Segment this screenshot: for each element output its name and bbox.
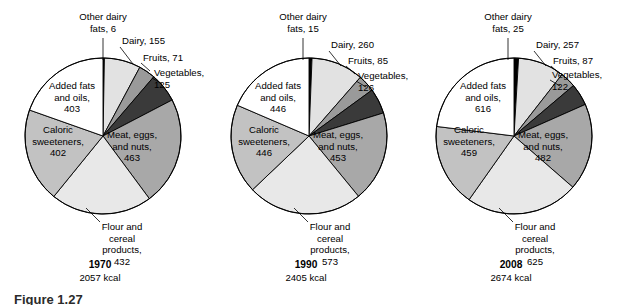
- pie-label-line: sweeteners,: [32, 136, 84, 147]
- pie-label-fruits: Fruits, 85: [348, 55, 388, 66]
- pie-label-line: products,: [310, 244, 349, 255]
- pie-label-line: Vegetables,: [358, 70, 408, 81]
- pie-label-line: Fruits, 87: [553, 55, 593, 66]
- pie-label-line: cereal: [522, 233, 548, 244]
- pie-label-line: 402: [50, 147, 66, 158]
- pie-label-line: Other dairy: [484, 11, 532, 22]
- pie-label-line: Vegetables,: [154, 67, 204, 78]
- pie-label-line: Meat, eggs,: [313, 129, 363, 140]
- pie-label-line: Flour and: [515, 221, 556, 232]
- pie-label-line: and oils,: [260, 92, 296, 103]
- pie-label-line: 625: [527, 256, 543, 267]
- pie-label-line: Other dairy: [79, 11, 127, 22]
- pie-label-other_dairy_fats: Other dairyfats, 6: [79, 11, 127, 34]
- pie-label-line: 122: [552, 81, 568, 92]
- pie-label-line: Other dairy: [279, 11, 327, 22]
- pie-label-line: Meat, eggs,: [107, 129, 157, 140]
- pie-label-dairy: Dairy, 155: [122, 35, 165, 46]
- pie-label-line: cereal: [109, 233, 135, 244]
- pie-label-line: sweeteners,: [443, 136, 495, 147]
- pie-label-line: products,: [515, 244, 554, 255]
- pie-label-line: Dairy, 260: [331, 39, 374, 50]
- pie-label-line: Added fats: [460, 80, 506, 91]
- pie-label-dairy: Dairy, 257: [536, 39, 579, 50]
- pie-label-line: and nuts,: [318, 141, 357, 152]
- pie-label-vegetables: Vegetables,126: [358, 70, 408, 93]
- pie-label-other_dairy_fats: Other dairyfats, 15: [279, 11, 327, 34]
- pie-label-line: Meat, eggs,: [518, 129, 568, 140]
- pie-label-vegetables: Vegetables,125: [154, 67, 204, 90]
- pie-label-other_dairy_fats: Other dairyfats, 25: [484, 11, 532, 34]
- pie-label-line: 482: [535, 152, 551, 163]
- pie-label-line: 446: [270, 103, 286, 114]
- pie-chart-2008: Other dairyfats, 25Dairy, 257Fruits, 87V…: [436, 11, 602, 283]
- pie-label-line: and nuts,: [523, 141, 562, 152]
- pie-label-line: 453: [330, 152, 346, 163]
- pie-label-fruits: Fruits, 87: [553, 55, 593, 66]
- pie-label-vegetables: Vegetables,122: [552, 69, 602, 92]
- pie-label-line: 403: [64, 103, 80, 114]
- pie-label-line: and oils,: [54, 92, 90, 103]
- pie-chart-1990: Other dairyfats, 15Dairy, 260Fruits, 85V…: [231, 11, 408, 283]
- pie-label-line: Flour and: [310, 221, 351, 232]
- pie-label-line: Fruits, 71: [143, 52, 183, 63]
- pie-label-line: Caloric: [43, 124, 73, 135]
- chart-year-1990: 1990: [295, 259, 318, 270]
- pie-label-line: sweeteners,: [238, 136, 290, 147]
- pie-label-line: 125: [154, 79, 170, 90]
- pie-label-line: Flour and: [102, 221, 143, 232]
- pie-label-line: fats, 6: [90, 23, 116, 34]
- chart-total-kcal-1990: 2405 kcal: [285, 272, 326, 283]
- pie-label-line: Dairy, 257: [536, 39, 579, 50]
- pie-label-dairy: Dairy, 260: [331, 39, 374, 50]
- pie-label-line: fats, 15: [287, 23, 318, 34]
- pie-chart-1970: Other dairyfats, 6Dairy, 155Fruits, 71Ve…: [25, 11, 204, 283]
- pie-label-line: Caloric: [249, 124, 279, 135]
- pie-label-line: 459: [461, 147, 477, 158]
- pie-label-line: Dairy, 155: [122, 35, 165, 46]
- pie-label-line: 616: [475, 103, 491, 114]
- pie-label-line: Added fats: [49, 80, 95, 91]
- chart-total-kcal-1970: 2057 kcal: [79, 272, 120, 283]
- pie-label-line: Fruits, 85: [348, 55, 388, 66]
- pie-label-line: cereal: [317, 233, 343, 244]
- chart-total-kcal-2008: 2674 kcal: [490, 272, 531, 283]
- pie-label-line: products,: [102, 244, 141, 255]
- pie-label-line: and nuts,: [112, 141, 151, 152]
- pie-label-fruits: Fruits, 71: [143, 52, 183, 63]
- chart-year-1970: 1970: [89, 259, 112, 270]
- pie-label-line: 126: [358, 82, 374, 93]
- pie-label-line: 573: [322, 256, 338, 267]
- chart-year-2008: 2008: [500, 259, 523, 270]
- three-pie-chart-figure: Other dairyfats, 6Dairy, 155Fruits, 71Ve…: [0, 0, 621, 305]
- pie-label-line: fats, 25: [492, 23, 523, 34]
- pie-label-line: and oils,: [465, 92, 501, 103]
- pie-label-line: 446: [256, 147, 272, 158]
- pie-label-line: 463: [124, 152, 140, 163]
- pie-label-line: 432: [114, 256, 130, 267]
- pie-label-line: Vegetables,: [552, 69, 602, 80]
- pie-label-line: Caloric: [454, 124, 484, 135]
- figure-caption: Figure 1.27: [14, 292, 83, 305]
- pie-label-line: Added fats: [255, 80, 301, 91]
